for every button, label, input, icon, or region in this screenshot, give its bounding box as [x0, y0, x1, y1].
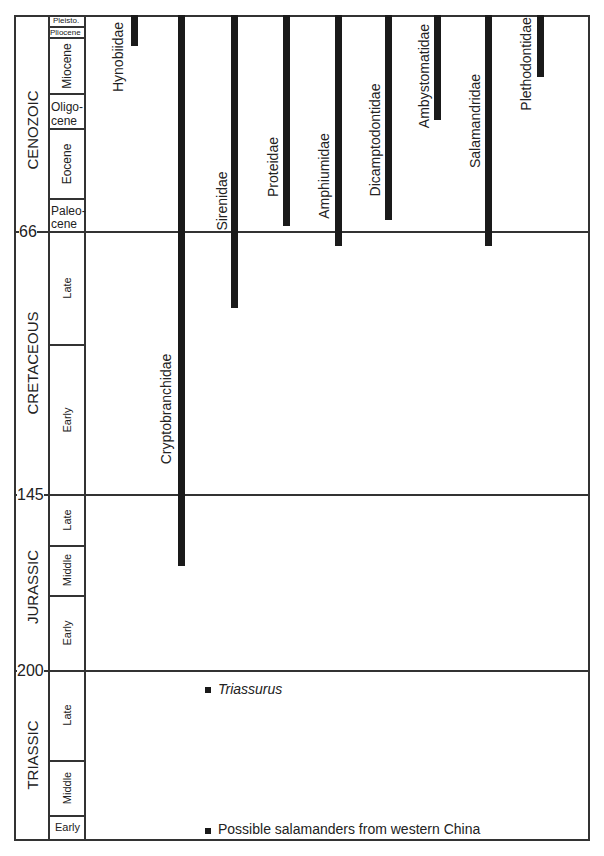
- epoch-divider: [48, 198, 86, 200]
- range-bar-proteidae: [283, 15, 290, 226]
- record-marker-triassurus: [205, 687, 211, 693]
- family-label-plethodontidae: Plethodontidae: [518, 17, 534, 110]
- epoch-column-divider: [84, 15, 86, 841]
- period-column-divider: [48, 15, 50, 841]
- family-label-dicamptodontidae: Dicamptodontidae: [367, 84, 383, 197]
- family-label-sirenidae: Sirenidae: [214, 171, 230, 230]
- epoch-label-early-cretaceous: Early: [61, 407, 73, 432]
- epoch-divider: [48, 37, 86, 39]
- range-bar-amphiumidae: [335, 15, 342, 246]
- epoch-divider: [48, 815, 86, 817]
- epoch-label-paleocene-1: Paleo-: [51, 204, 86, 218]
- period-label-triassic: TRIASSIC: [24, 720, 41, 789]
- family-label-hynobiidae: Hynobiidae: [110, 22, 126, 92]
- epoch-divider: [48, 545, 86, 547]
- epoch-label-middle-jurassic: Middle: [61, 554, 73, 586]
- range-bar-cryptobranchidae: [178, 15, 185, 566]
- range-bar-dicamptodontidae: [385, 15, 392, 220]
- record-marker-western-china: [205, 828, 211, 834]
- epoch-label-early-jurassic: Early: [61, 620, 73, 645]
- record-label-western-china: Possible salamanders from western China: [218, 821, 480, 837]
- family-label-ambystomatidae: Ambystomatidae: [416, 24, 432, 128]
- range-bar-sirenidae: [231, 15, 238, 308]
- epoch-label-paleocene-2: cene: [51, 217, 77, 231]
- tick-label-66: 66: [19, 224, 37, 240]
- epoch-label-late-cretaceous: Late: [61, 277, 73, 298]
- period-label-jurassic: JURASSIC: [24, 550, 41, 624]
- epoch-divider: [48, 595, 86, 597]
- chart-frame: [14, 15, 590, 841]
- period-label-cretaceous: CRETACEOUS: [24, 311, 41, 414]
- boundary-66: [14, 231, 590, 233]
- range-bar-ambystomatidae: [434, 15, 441, 120]
- range-bar-salamandridae: [485, 15, 492, 246]
- epoch-label-middle-triassic: Middle: [61, 772, 73, 804]
- family-label-cryptobranchidae: Cryptobranchidae: [158, 354, 174, 465]
- epoch-divider: [48, 128, 86, 130]
- tick-label-200: 200: [17, 663, 44, 679]
- epoch-label-oligocene-1: Oligo-: [51, 100, 83, 114]
- range-bar-hynobiidae: [131, 15, 138, 46]
- record-label-triassurus: Triassurus: [218, 681, 282, 697]
- epoch-divider: [48, 760, 86, 762]
- family-label-salamandridae: Salamandridae: [467, 74, 483, 168]
- epoch-label-miocene: Miocene: [60, 43, 74, 88]
- family-label-amphiumidae: Amphiumidae: [316, 133, 332, 219]
- epoch-label-pliocene: Pliocene: [50, 28, 81, 37]
- tick-label-145: 145: [17, 487, 44, 503]
- epoch-divider: [48, 344, 86, 346]
- epoch-label-late-triassic: Late: [61, 704, 73, 725]
- period-label-cenozoic: CENOZOIC: [24, 90, 41, 169]
- epoch-label-oligocene-2: cene: [51, 114, 77, 128]
- epoch-label-late-jurassic: Late: [61, 509, 73, 530]
- boundary-145: [14, 494, 590, 496]
- range-bar-plethodontidae: [537, 15, 544, 77]
- epoch-label-eocene: Eocene: [60, 144, 74, 185]
- epoch-label-pleistocene: Pleisto.: [53, 16, 79, 25]
- epoch-label-early-triassic: Early: [55, 821, 80, 833]
- family-label-proteidae: Proteidae: [265, 137, 281, 197]
- epoch-divider: [48, 93, 86, 95]
- boundary-200: [14, 670, 590, 672]
